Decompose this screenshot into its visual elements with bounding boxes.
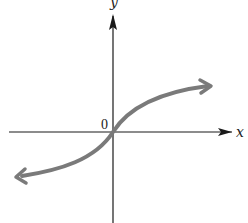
origin-label: 0	[101, 117, 108, 132]
function-curve	[22, 86, 208, 176]
function-graph: x y 0	[0, 0, 248, 223]
x-axis-label: x	[236, 124, 244, 140]
y-axis-label: y	[109, 0, 119, 10]
